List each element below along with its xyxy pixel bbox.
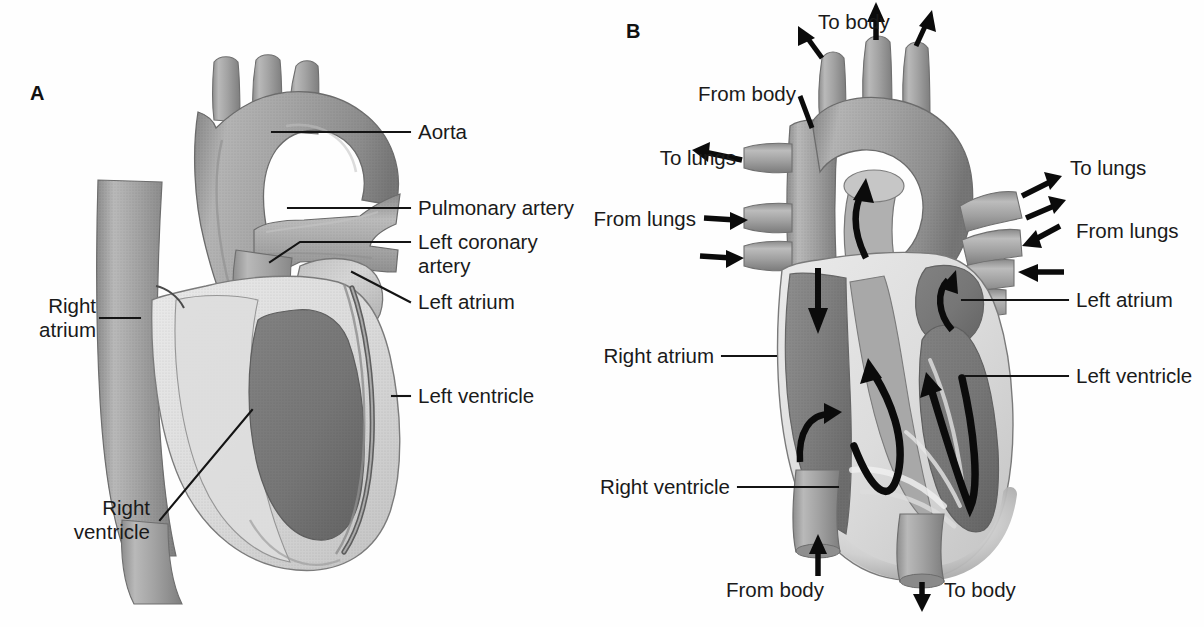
pulmonary-vein-stub-left-lower-b <box>744 241 792 271</box>
leader-right-ventricle <box>160 410 252 520</box>
flow-arrow-rv-out <box>854 374 900 491</box>
panel-b-leader-lines <box>722 300 1068 487</box>
descending-aorta-opening-b <box>900 574 944 588</box>
label-aorta: Aorta <box>418 120 467 144</box>
label-to-lungs-left: To lungs <box>600 146 736 170</box>
arrow-to-lungs-right-upper-shaft <box>1022 182 1050 196</box>
left-ventricle-chamber-b <box>919 325 998 532</box>
label-left-coronary-artery-line1: Left coronary <box>418 230 538 254</box>
arrow-from-lungs-right-upper-head <box>1022 230 1042 248</box>
label-left-ventricle-b: Left ventricle <box>1076 364 1192 388</box>
aortic-branch-left-b <box>819 52 846 124</box>
label-left-atrium-b: Left atrium <box>1076 288 1173 312</box>
label-to-body-bottom: To body <box>944 578 1016 602</box>
pulmonary-artery-stub-left-b <box>744 143 792 173</box>
flow-arrow-lv-out <box>932 378 975 508</box>
brachiocephalic-branch-a <box>213 57 241 122</box>
interventricular-septum-b <box>850 276 936 530</box>
label-left-coronary-artery-line2: artery <box>418 254 470 278</box>
aortic-branch-mid-b <box>863 36 892 120</box>
panel-b-internal-flow-arrows <box>800 178 975 508</box>
label-to-lungs-right: To lungs <box>1070 156 1146 180</box>
arrow-to-lungs-right-upper-head <box>1044 172 1062 190</box>
arrow-to-body-right-head <box>919 10 936 32</box>
flow-arrowhead-pulmonary-up <box>853 178 874 203</box>
descending-aorta-b <box>897 514 944 582</box>
flow-arrowhead-ra-down <box>808 308 828 334</box>
panel-letter-b: B <box>626 20 641 43</box>
leader-left-coronary-artery <box>270 242 410 262</box>
pulmonary-valve-b <box>844 170 904 202</box>
arrow-from-lungs-left-upper-shaft <box>704 218 736 220</box>
flow-arrowhead-rv-in <box>824 403 842 424</box>
pulmonary-vein-stub-right-mid-b <box>958 259 1014 296</box>
pulmonary-trunk-a <box>233 250 300 344</box>
panel-a-leader-lines <box>100 132 410 520</box>
label-right-atrium-a-line2: atrium <box>10 318 96 342</box>
pulmonary-vein-stub-right-upper-b <box>962 229 1022 266</box>
flow-arrow-pulmonary-up <box>856 192 866 258</box>
flow-arrowhead-lv-out <box>920 372 942 398</box>
flow-arrowhead-rv-out <box>860 358 882 384</box>
left-atrium-chamber-b <box>916 265 984 345</box>
panel-b-heart-drawing <box>744 36 1022 588</box>
aorta-a <box>195 92 399 330</box>
arrow-from-lungs-left-lower-shaft <box>700 256 732 258</box>
arrow-from-body-bottom-head <box>809 534 827 554</box>
left-coronary-artery-a <box>344 288 372 552</box>
arrow-to-body-left-head <box>798 26 815 46</box>
leader-left-atrium <box>352 272 410 302</box>
label-from-body-bottom: From body <box>726 578 824 602</box>
label-right-atrium-a-line1: Right <box>10 294 96 318</box>
arrow-from-lungs-left-lower-head <box>726 250 744 268</box>
heart-anatomy-figure: A B <box>0 0 1204 627</box>
apex-myocardium-b <box>806 494 1010 574</box>
pulmonary-artery-stub-right-b <box>960 192 1022 232</box>
pulmonary-artery-a <box>254 194 400 296</box>
aortic-branch-right-b <box>903 42 930 124</box>
arrow-from-lungs-right-upper-shaft <box>1034 226 1060 240</box>
arrow-to-body-left-shaft <box>806 36 822 58</box>
left-atrium-a <box>294 259 383 338</box>
arrow-to-lungs-right-lower-shaft <box>1026 206 1054 218</box>
superior-vena-cava-b <box>787 120 838 292</box>
ventricular-mass-a <box>152 276 400 570</box>
pulmonary-trunk-b <box>844 180 898 282</box>
heart-body-b <box>778 252 1013 580</box>
label-left-atrium-a: Left atrium <box>418 290 515 314</box>
arrow-to-body-bottom-head <box>913 594 931 612</box>
flow-arrowhead-la-in <box>940 270 958 294</box>
right-ventricle-wall-a <box>175 296 290 563</box>
subclavian-branch-a <box>289 61 319 134</box>
label-right-atrium-b: Right atrium <box>578 344 714 368</box>
panel-letter-a: A <box>30 82 45 105</box>
inferior-vena-cava-b <box>793 470 840 552</box>
arrow-from-lungs-right-lower-head <box>1018 264 1038 282</box>
arrow-to-body-right-shaft <box>916 20 928 46</box>
arrow-from-lungs-left-upper-head <box>730 212 748 230</box>
pulmonary-vein-stub-right-lower-b <box>954 289 1006 324</box>
heart-illustration-layer <box>0 0 1204 627</box>
flow-arrow-la-in <box>940 280 952 330</box>
label-right-ventricle-a-line2: ventricle <box>10 520 150 544</box>
label-pulmonary-artery: Pulmonary artery <box>418 196 574 220</box>
right-atrium-chamber-b <box>785 273 851 534</box>
right-atrium-vessel-a <box>156 286 184 308</box>
label-right-ventricle-b: Right ventricle <box>570 475 730 499</box>
trabeculae-b <box>852 469 944 506</box>
label-left-ventricle-a: Left ventricle <box>418 384 534 408</box>
arrow-from-body-top-shaft <box>800 96 812 128</box>
label-from-body-top: From body <box>634 82 796 106</box>
label-from-lungs-left: From lungs <box>586 207 696 231</box>
left-ventricle-chamber-a <box>249 310 364 540</box>
flow-arrow-rv-in <box>800 414 830 462</box>
pulmonary-vein-stub-left-upper-b <box>744 203 792 233</box>
inferior-vena-cava-opening-b <box>796 544 840 558</box>
aorta-b <box>812 97 973 276</box>
label-right-ventricle-a-line1: Right <box>10 496 150 520</box>
arrow-to-lungs-right-lower-head <box>1048 196 1066 214</box>
label-to-body-top: To body <box>818 10 890 34</box>
carotid-branch-a <box>253 55 282 124</box>
label-from-lungs-right: From lungs <box>1076 219 1179 243</box>
